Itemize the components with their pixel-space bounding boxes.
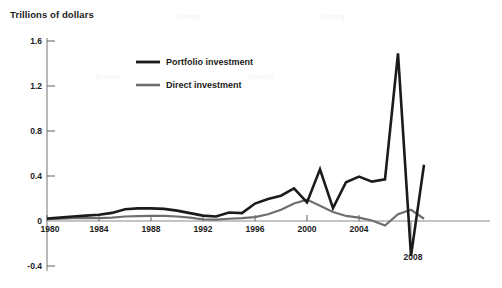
legend-label-direct-investment: Direct investment [166,80,242,90]
chart-legend: Portfolio investment Direct investment [136,57,253,90]
x-tick-label-1984: 1984 [90,224,109,234]
y-tick-label-1-2: 1.2 [30,81,42,91]
chart-plot-area: 1.6 1.2 0.8 0.4 0 -0.4 1980 1984 1988 19… [0,0,502,288]
x-tick-label-2004: 2004 [350,224,369,234]
y-tick-label-0-4: 0.4 [30,171,42,181]
legend-label-portfolio-investment: Portfolio investment [166,57,253,67]
x-tick-label-1988: 1988 [142,224,161,234]
y-tick-label-neg-0-4: -0.4 [27,261,42,271]
x-tick-label-2008: 2008 [404,252,423,262]
y-tick-label-1-6: 1.6 [30,36,42,46]
x-tick-label-1980: 1980 [41,224,60,234]
x-tick-label-1996: 1996 [246,224,265,234]
chart-figure: alamy alamy alamy alamy Trillions of dol… [0,0,502,288]
y-tick-label-0-8: 0.8 [30,126,42,136]
x-tick-label-1992: 1992 [194,224,213,234]
x-tick-label-2000: 2000 [298,224,317,234]
